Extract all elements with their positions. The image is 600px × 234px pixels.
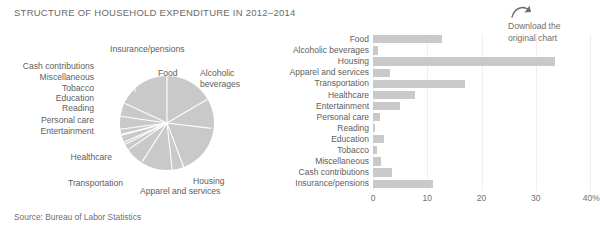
- pie-label-apparel-and-services: Apparel and services: [140, 186, 220, 196]
- bar-fill: [373, 113, 380, 121]
- bar-row: Transportation: [285, 78, 590, 89]
- pie-label-miscellaneous: Miscellaneous: [4, 72, 94, 82]
- bar-row: Personal care: [285, 112, 590, 123]
- bar-track: [373, 101, 590, 112]
- download-label-line1: Download the: [508, 21, 590, 32]
- bar-track: [373, 134, 590, 145]
- pie-label-personal-care: Personal care: [4, 115, 94, 125]
- curved-arrow-icon: [510, 4, 590, 20]
- bar-track: [373, 78, 590, 89]
- bar-category-label: Alcoholic beverages: [285, 45, 373, 56]
- bar-category-label: Miscellaneous: [285, 156, 373, 167]
- bar-fill: [373, 102, 400, 110]
- page-title: STRUCTURE OF HOUSEHOLD EXPENDITURE IN 20…: [14, 7, 296, 18]
- bar-track: [373, 178, 590, 189]
- pie-label-alcoholic-beverages-line1: Alcoholic: [200, 68, 234, 78]
- pie-label-food: Food: [158, 68, 178, 78]
- x-axis-tick-label: 20: [477, 193, 486, 203]
- bar-category-label: Education: [285, 134, 373, 145]
- bar-fill: [373, 146, 377, 154]
- bar-category-label: Housing: [285, 56, 373, 67]
- bar-category-label: Healthcare: [285, 90, 373, 101]
- bar-fill: [373, 157, 381, 165]
- bar-row: Miscellaneous: [285, 156, 590, 167]
- x-axis-tick-label: 30: [531, 193, 540, 203]
- bar-row: Insurance/pensions: [285, 178, 590, 189]
- bar-rows: FoodAlcoholic beveragesHousingApparel an…: [285, 34, 590, 189]
- bar-row: Reading: [285, 123, 590, 134]
- bar-category-label: Cash contributions: [285, 167, 373, 178]
- bar-fill: [373, 135, 384, 143]
- bar-track: [373, 89, 590, 100]
- bar-category-label: Transportation: [285, 78, 373, 89]
- bar-fill: [373, 46, 378, 54]
- bar-fill: [373, 91, 415, 99]
- pie-slices: [96, 76, 214, 170]
- bar-track: [373, 34, 590, 45]
- bar-track: [373, 67, 590, 78]
- source-note: Source: Bureau of Labor Statistics: [14, 212, 141, 222]
- bar-track: [373, 123, 590, 134]
- x-axis-tick-label: 40%: [583, 193, 600, 203]
- bar-fill: [373, 180, 433, 188]
- bar-chart: FoodAlcoholic beveragesHousingApparel an…: [285, 34, 590, 214]
- bar-fill: [373, 69, 390, 77]
- pie-label-healthcare: Healthcare: [4, 152, 112, 162]
- bar-row: Cash contributions: [285, 167, 590, 178]
- bar-row: Entertainment: [285, 101, 590, 112]
- bar-row: Housing: [285, 56, 590, 67]
- bar-fill: [373, 124, 375, 132]
- pie-chart: Insurance/pensions Cash contributions Mi…: [0, 30, 280, 205]
- bar-row: Healthcare: [285, 89, 590, 100]
- bar-track: [373, 112, 590, 123]
- bar-fill: [373, 168, 392, 176]
- pie-label-cash-contributions: Cash contributions: [4, 61, 94, 71]
- bar-track: [373, 145, 590, 156]
- pie-label-insurance-pensions: Insurance/pensions: [110, 44, 185, 54]
- bar-fill: [373, 35, 442, 43]
- x-axis-tick-label: 0: [371, 193, 376, 203]
- bar-row: Education: [285, 134, 590, 145]
- bar-category-label: Reading: [285, 123, 373, 134]
- bar-row: Apparel and services: [285, 67, 590, 78]
- pie-label-reading: Reading: [4, 103, 94, 113]
- bar-category-label: Food: [285, 34, 373, 45]
- pie-label-tobacco: Tobacco: [4, 83, 94, 93]
- bar-category-label: Insurance/pensions: [285, 178, 373, 189]
- pie-label-alcoholic-beverages-line2: beverages: [200, 79, 240, 89]
- bar-category-label: Personal care: [285, 112, 373, 123]
- pie-label-housing: Housing: [193, 176, 225, 186]
- bar-row: Tobacco: [285, 145, 590, 156]
- bar-category-label: Apparel and services: [285, 67, 373, 78]
- pie-label-education: Education: [4, 93, 94, 103]
- x-axis: 010203040%: [373, 191, 590, 205]
- bar-row: Food: [285, 34, 590, 45]
- bar-track: [373, 156, 590, 167]
- bar-category-label: Tobacco: [285, 145, 373, 156]
- bar-row: Alcoholic beverages: [285, 45, 590, 56]
- bar-track: [373, 167, 590, 178]
- bar-category-label: Entertainment: [285, 101, 373, 112]
- bar-track: [373, 45, 590, 56]
- bar-track: [373, 56, 590, 67]
- pie-label-entertainment: Entertainment: [4, 126, 94, 136]
- pie-label-transportation: Transportation: [68, 178, 123, 188]
- x-axis-tick-label: 10: [423, 193, 432, 203]
- bar-fill: [373, 57, 555, 65]
- bar-fill: [373, 80, 465, 88]
